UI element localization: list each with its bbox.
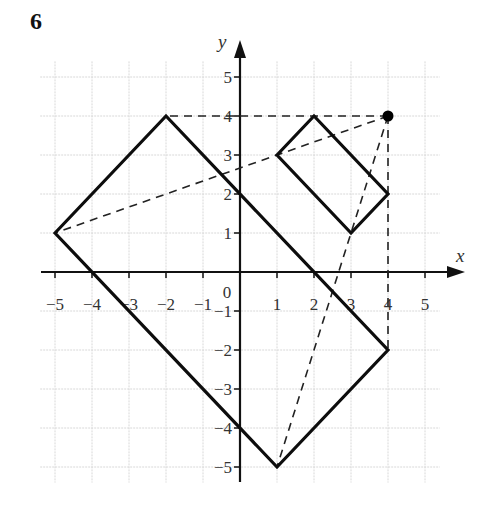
x-tick-label: −4: [83, 295, 102, 314]
x-tick-label: −1: [194, 295, 212, 314]
y-tick-label: 5: [224, 68, 233, 87]
x-tick-label: 1: [273, 295, 282, 314]
y-tick-label: −4: [214, 419, 233, 438]
x-tick-label: 2: [310, 295, 319, 314]
y-axis-label: y: [216, 31, 227, 52]
coordinate-plane: −5−4−3−2−112345−5−4−3−2−1123450xy: [0, 0, 502, 521]
y-tick-label: 1: [224, 224, 233, 243]
x-axis-label: x: [455, 245, 465, 266]
y-tick-label: −5: [214, 458, 232, 477]
y-tick-label: −3: [214, 380, 232, 399]
large-rectangle: [55, 116, 388, 467]
y-tick-label: −2: [214, 341, 232, 360]
x-tick-label: 5: [421, 295, 430, 314]
x-tick-label: −2: [157, 295, 175, 314]
y-tick-label: 3: [224, 146, 233, 165]
y-tick-label: 2: [224, 185, 233, 204]
axes: [41, 40, 465, 482]
centre-point: [383, 111, 394, 122]
y-axis-arrow-icon: [234, 40, 246, 58]
origin-label: 0: [223, 283, 232, 302]
tick-labels: −5−4−3−2−112345−5−4−3−2−1123450xy: [46, 31, 465, 477]
rectangles: [55, 116, 388, 467]
x-tick-label: −5: [46, 295, 64, 314]
enlargement-centre-point: [383, 111, 394, 122]
x-axis-arrow-icon: [447, 266, 465, 278]
y-tick-label: −1: [214, 302, 232, 321]
dashed-construction-lines: [55, 116, 388, 467]
small-rectangle: [277, 116, 388, 233]
